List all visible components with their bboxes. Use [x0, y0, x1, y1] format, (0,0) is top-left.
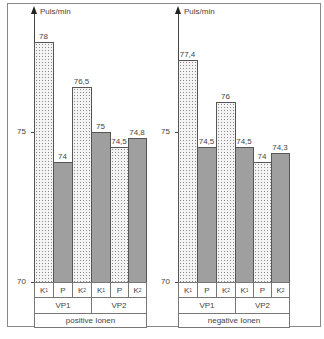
category-subscript: 2	[227, 287, 230, 293]
bar	[216, 102, 236, 283]
group-cell-vp1: VP1	[178, 297, 236, 314]
bar-value-label: 77,4	[173, 50, 203, 59]
category-label: P	[204, 286, 209, 295]
category-cell: K1	[235, 282, 254, 298]
category-cell: K1	[34, 282, 54, 298]
bar-value-label: 74,5	[229, 137, 259, 146]
ion-type-label: positive Ionen	[34, 313, 147, 328]
category-cell: K2	[271, 282, 290, 298]
ion-type-label: negative Ionen	[178, 313, 290, 328]
bar	[91, 132, 111, 283]
category-cell: P	[197, 282, 217, 298]
y-axis-arrow-icon	[175, 6, 181, 14]
bar-value-label: 74,8	[122, 128, 152, 137]
bar	[53, 162, 73, 283]
category-label: P	[117, 286, 122, 295]
bar	[271, 153, 290, 283]
y-axis-unit-label: Puls/min	[40, 7, 71, 16]
y-tick-label: 70	[150, 277, 170, 286]
bar	[197, 147, 217, 283]
category-label: P	[260, 286, 265, 295]
bar	[34, 42, 54, 283]
category-cell: K1	[91, 282, 111, 298]
category-label: P	[60, 286, 65, 295]
category-cell: K2	[72, 282, 92, 298]
category-subscript: 1	[102, 287, 105, 293]
bar-value-label: 76	[211, 92, 241, 101]
group-cell-vp1: VP1	[34, 297, 92, 314]
category-cell: P	[53, 282, 73, 298]
y-tick-label: 75	[6, 127, 26, 136]
category-cell: K2	[216, 282, 236, 298]
category-subscript: 2	[282, 287, 285, 293]
category-subscript: 1	[189, 287, 192, 293]
bar-value-label: 78	[29, 32, 59, 41]
category-subscript: 1	[246, 287, 249, 293]
bar	[72, 87, 92, 283]
category-cell: K2	[128, 282, 147, 298]
bar	[235, 147, 254, 283]
bar	[253, 162, 272, 283]
group-cell-vp2: VP2	[235, 297, 290, 314]
bar	[110, 147, 129, 283]
category-subscript: 2	[83, 287, 86, 293]
y-axis-arrow-icon	[31, 6, 37, 14]
bar	[128, 138, 147, 283]
category-cell: P	[253, 282, 272, 298]
y-axis-unit-label: Puls/min	[184, 7, 215, 16]
category-cell: K1	[178, 282, 198, 298]
bar	[178, 60, 198, 283]
category-subscript: 1	[45, 287, 48, 293]
bar-value-label: 75	[86, 122, 116, 131]
category-cell: P	[110, 282, 129, 298]
y-tick-label: 70	[6, 277, 26, 286]
bar-value-label: 76,5	[67, 77, 97, 86]
category-subscript: 2	[139, 287, 142, 293]
bar-value-label: 74,3	[265, 143, 295, 152]
y-tick-label: 75	[150, 127, 170, 136]
group-cell-vp2: VP2	[91, 297, 147, 314]
